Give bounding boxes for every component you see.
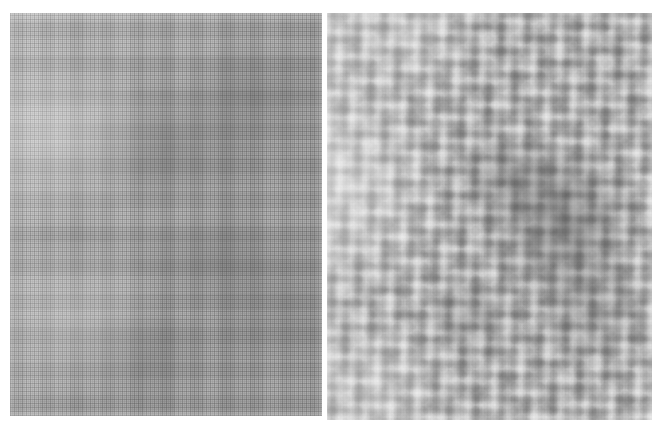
figure-root <box>0 0 658 430</box>
panel-right-coarse-blobs <box>327 13 652 420</box>
right-shading-layer <box>327 13 652 420</box>
panel-left-fine-weave <box>10 13 322 416</box>
left-shading-layer <box>10 13 322 416</box>
